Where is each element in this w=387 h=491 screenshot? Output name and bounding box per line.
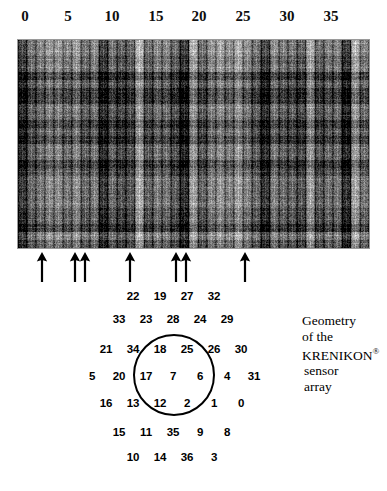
caption-line-2: of the: [302, 329, 379, 345]
sensor-cell-32: 32: [208, 290, 220, 302]
x-axis-tick-15: 15: [149, 8, 164, 25]
figure-caption: Geometry of the KRENIKON® sensor array: [302, 313, 379, 394]
sensor-cell-20: 20: [113, 370, 125, 382]
caption-brand: KRENIKON: [302, 348, 373, 363]
sensor-cell-15: 15: [113, 426, 125, 438]
sensor-cell-10: 10: [127, 451, 139, 463]
sensor-cell-8: 8: [224, 426, 230, 438]
sensor-cell-29: 29: [221, 313, 233, 325]
sensor-cell-21: 21: [100, 343, 112, 355]
sensor-cell-18: 18: [154, 343, 166, 355]
x-axis-tick-0: 0: [21, 8, 29, 25]
sensor-cell-11: 11: [140, 426, 152, 438]
figure-root: 05101520253035 2219273233232824292134182…: [0, 0, 387, 491]
channel-marker-arrow-6: [180, 252, 192, 282]
sensor-cell-35: 35: [167, 426, 179, 438]
channel-marker-arrow-7: [239, 252, 251, 282]
sensor-cell-25: 25: [181, 343, 193, 355]
sensor-cell-16: 16: [100, 397, 112, 409]
channel-marker-arrow-4: [124, 252, 136, 282]
krenikon-sensor-raster-image: [18, 40, 369, 248]
x-axis-tick-5: 5: [64, 8, 72, 25]
sensor-cell-27: 27: [181, 290, 193, 302]
sensor-cell-4: 4: [224, 370, 230, 382]
sensor-cell-36: 36: [181, 451, 193, 463]
sensor-cell-30: 30: [235, 343, 247, 355]
sensor-cell-12: 12: [154, 397, 166, 409]
sensor-cell-14: 14: [154, 451, 166, 463]
sensor-cell-19: 19: [154, 290, 166, 302]
caption-line-1: Geometry: [302, 313, 379, 329]
sensor-cell-26: 26: [208, 343, 220, 355]
sensor-cell-0: 0: [238, 397, 244, 409]
sensor-cell-33: 33: [113, 313, 125, 325]
sensor-cell-17: 17: [140, 370, 152, 382]
sensor-cell-2: 2: [184, 397, 190, 409]
channel-marker-arrow-1: [36, 252, 48, 282]
sensor-cell-28: 28: [167, 313, 179, 325]
x-axis-tick-35: 35: [324, 8, 339, 25]
registered-trademark-icon: ®: [373, 346, 380, 356]
sensor-cell-31: 31: [248, 370, 260, 382]
caption-line-5: array: [302, 379, 379, 395]
sensor-cell-13: 13: [127, 397, 139, 409]
sensor-cell-1: 1: [211, 397, 217, 409]
x-axis-tick-30: 30: [280, 8, 295, 25]
sensor-cell-6: 6: [197, 370, 203, 382]
x-axis-tick-20: 20: [192, 8, 207, 25]
sensor-cell-9: 9: [197, 426, 203, 438]
channel-marker-arrow-3: [79, 252, 91, 282]
sensor-cell-23: 23: [140, 313, 152, 325]
sensor-cell-34: 34: [127, 343, 139, 355]
sensor-cell-24: 24: [194, 313, 206, 325]
sensor-cell-7: 7: [170, 370, 176, 382]
x-axis-tick-25: 25: [236, 8, 251, 25]
caption-line-4: sensor: [302, 363, 379, 379]
sensor-cell-22: 22: [127, 290, 139, 302]
sensor-cell-3: 3: [211, 451, 217, 463]
x-axis-tick-10: 10: [105, 8, 120, 25]
sensor-cell-5: 5: [89, 370, 95, 382]
caption-line-3: KRENIKON®: [302, 344, 379, 363]
